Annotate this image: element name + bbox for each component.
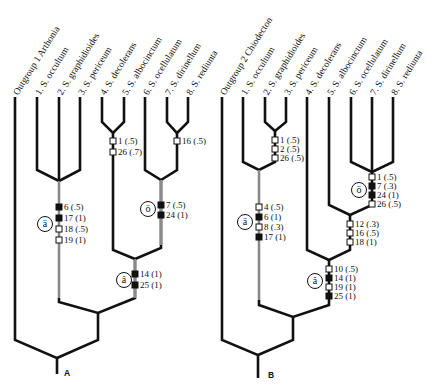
character-label: 14 (1) [140, 270, 162, 279]
panel-label: A [64, 368, 70, 378]
character-label: 1 (.5) [118, 137, 138, 146]
circled-symbol: â [307, 273, 323, 289]
character-label: 17 (1) [64, 214, 86, 223]
character-label: 16 (.5) [182, 137, 206, 146]
character-label: 7 (.5) [166, 201, 186, 210]
character-label: 26 (.5) [377, 200, 401, 209]
circled-symbol: ö [351, 182, 367, 198]
cladogram-panel-b: Outgroup 2 Chiodecton 1. S. occultum 2. … [214, 0, 427, 388]
circled-symbol: â [116, 272, 132, 288]
circled-symbol: ä [37, 216, 53, 232]
cladogram-panel-a: Outgroup 1 Arthonia 1. S. occultum 2. S.… [0, 0, 214, 388]
character-label: 26 (.5) [280, 154, 304, 163]
character-label: 6 (.5) [64, 203, 84, 212]
character-label: 26 (.7) [118, 148, 142, 157]
character-label: 18 (.5) [64, 225, 88, 234]
character-label: 18 (1) [355, 238, 377, 247]
panel-label: B [268, 370, 274, 380]
character-label: 24 (1) [166, 211, 188, 220]
character-label: 19 (1) [64, 236, 86, 245]
character-label: 8 (.3) [264, 223, 284, 232]
circled-symbol: ö [140, 201, 156, 217]
character-label: 25 (1) [334, 292, 356, 301]
character-label: 25 (1) [140, 281, 162, 290]
character-label: 4 (.5) [264, 203, 284, 212]
character-label: 17 (1) [264, 233, 286, 242]
circled-symbol: ä [237, 214, 253, 230]
open-marker [110, 138, 116, 144]
character-label: 6 (1) [264, 213, 281, 222]
